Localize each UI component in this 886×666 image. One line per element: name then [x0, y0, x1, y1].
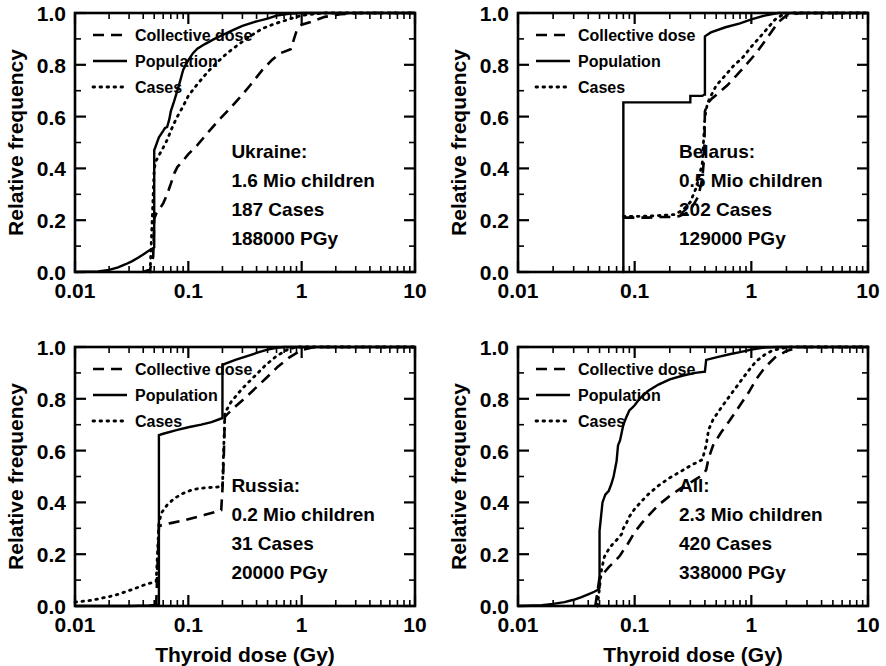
legend-label: Collective dose: [135, 27, 252, 44]
x-tick-label: 0.1: [174, 279, 204, 302]
x-tick-label: 1: [745, 613, 757, 636]
panel-annotation: Belarus:0.5 Mio children202 Cases129000 …: [679, 141, 823, 249]
legend: Collective dosePopulationCases: [93, 361, 252, 430]
y-tick-label: 0.2: [37, 209, 66, 232]
x-tick-label: 10: [856, 279, 879, 302]
legend-label: Cases: [135, 79, 182, 96]
x-tick-label: 1: [296, 279, 308, 302]
y-tick-label: 0.8: [37, 388, 67, 411]
legend-label: Cases: [135, 413, 182, 430]
annotation-line: Belarus:: [679, 141, 755, 162]
legend-label: Population: [578, 387, 661, 404]
y-tick-label: 0.0: [37, 595, 66, 618]
y-tick-label: 0.4: [37, 491, 67, 514]
legend-label: Population: [135, 53, 218, 70]
annotation-line: 420 Cases: [679, 533, 772, 554]
annotation-line: 0.2 Mio children: [231, 504, 375, 525]
legend-label: Collective dose: [135, 361, 252, 378]
annotation-line: 2.3 Mio children: [679, 504, 823, 525]
y-tick-label: 0.4: [480, 157, 510, 180]
y-tick-label: 1.0: [37, 336, 66, 359]
y-tick-label: 0.6: [480, 440, 509, 463]
y-tick-label: 0.8: [480, 54, 510, 77]
x-tick-label: 1: [296, 613, 308, 636]
y-tick-label: 0.6: [37, 440, 66, 463]
y-tick-label: 1.0: [480, 2, 509, 25]
y-tick-label: 0.8: [37, 54, 67, 77]
legend: Collective dosePopulationCases: [93, 27, 252, 96]
legend-label: Collective dose: [578, 361, 695, 378]
y-axis-title: Relative frequency: [447, 383, 470, 570]
x-axis-title: Thyroid dose (Gy): [155, 643, 335, 666]
y-tick-label: 0.2: [480, 543, 509, 566]
annotation-line: Russia:: [231, 475, 300, 496]
annotation-line: 0.5 Mio children: [679, 170, 823, 191]
y-axis-title: Relative frequency: [447, 49, 470, 236]
y-tick-label: 0.4: [480, 491, 510, 514]
y-tick-label: 1.0: [37, 2, 66, 25]
y-tick-label: 0.8: [480, 388, 510, 411]
annotation-line: 202 Cases: [679, 199, 772, 220]
legend: Collective dosePopulationCases: [536, 361, 695, 430]
legend-label: Population: [135, 387, 218, 404]
x-tick-label: 10: [856, 613, 879, 636]
annotation-line: 188000 PGy: [231, 228, 338, 249]
panel-top-left: 0.010.11100.00.20.40.60.81.0Collective d…: [4, 2, 427, 302]
y-tick-label: 1.0: [480, 336, 509, 359]
x-tick-label: 1: [745, 279, 757, 302]
y-tick-label: 0.0: [480, 261, 509, 284]
y-tick-label: 0.2: [480, 209, 509, 232]
y-axis-title: Relative frequency: [4, 49, 27, 236]
figure-root: 0.010.11100.00.20.40.60.81.0Collective d…: [0, 0, 886, 666]
panel-annotation: Ukraine:1.6 Mio children187 Cases188000 …: [231, 141, 375, 249]
annotation-line: 187 Cases: [231, 199, 324, 220]
annotation-line: Ukraine:: [231, 141, 307, 162]
x-tick-label: 10: [403, 613, 426, 636]
x-tick-label: 10: [403, 279, 426, 302]
panel-bottom-left: 0.010.11100.00.20.40.60.81.0Collective d…: [4, 336, 427, 666]
y-tick-label: 0.4: [37, 157, 67, 180]
legend-label: Collective dose: [578, 27, 695, 44]
annotation-line: 1.6 Mio children: [231, 170, 375, 191]
x-tick-label: 0.1: [620, 613, 650, 636]
annotation-line: 20000 PGy: [231, 562, 328, 583]
x-axis-title: Thyroid dose (Gy): [603, 643, 783, 666]
y-axis-title: Relative frequency: [4, 383, 27, 570]
y-tick-label: 0.0: [37, 261, 66, 284]
y-tick-label: 0.6: [37, 106, 66, 129]
y-tick-label: 0.6: [480, 106, 509, 129]
panel-annotation: All:2.3 Mio children420 Cases338000 PGy: [679, 475, 823, 583]
legend-label: Cases: [578, 79, 625, 96]
figure-canvas: 0.010.11100.00.20.40.60.81.0Collective d…: [0, 0, 886, 666]
annotation-line: 129000 PGy: [679, 228, 786, 249]
y-tick-label: 0.0: [480, 595, 509, 618]
x-tick-label: 0.1: [620, 279, 650, 302]
legend-label: Population: [578, 53, 661, 70]
legend-label: Cases: [578, 413, 625, 430]
panel-top-right: 0.010.11100.00.20.40.60.81.0Collective d…: [447, 2, 880, 302]
x-tick-label: 0.1: [174, 613, 204, 636]
annotation-line: All:: [679, 475, 710, 496]
annotation-line: 31 Cases: [231, 533, 313, 554]
y-tick-label: 0.2: [37, 543, 66, 566]
panel-bottom-right: 0.010.11100.00.20.40.60.81.0Collective d…: [447, 336, 880, 666]
panel-annotation: Russia:0.2 Mio children31 Cases20000 PGy: [231, 475, 375, 583]
annotation-line: 338000 PGy: [679, 562, 786, 583]
legend: Collective dosePopulationCases: [536, 27, 695, 96]
